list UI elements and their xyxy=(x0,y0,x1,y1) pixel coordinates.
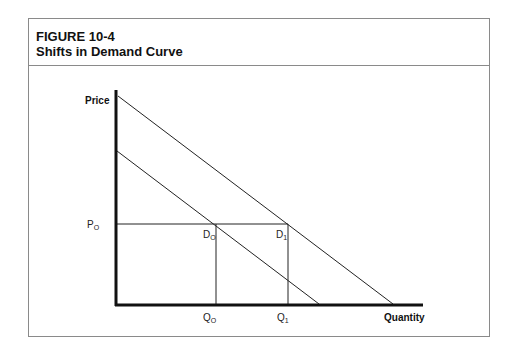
x-axis-label: Quantity xyxy=(384,312,425,323)
demand-curve-d0 xyxy=(117,151,319,304)
d0-label: DO xyxy=(203,229,216,241)
y-axis-label: Price xyxy=(85,95,110,106)
q0-label: QO xyxy=(203,312,217,324)
demand-chart: Price Quantity PO DO D1 QO Q1 xyxy=(0,0,517,355)
q1-label: Q1 xyxy=(277,312,289,324)
d1-label: D1 xyxy=(276,229,287,241)
p0-label: PO xyxy=(87,219,100,231)
demand-curve-d1 xyxy=(118,96,393,304)
